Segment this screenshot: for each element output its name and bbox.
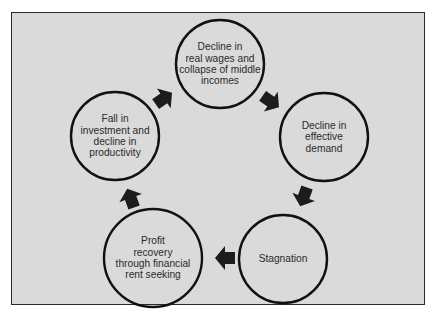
arrow-profit-to-investment-icon: [116, 185, 145, 212]
node-investment-line: Fall in: [80, 113, 149, 124]
node-wages: Decline in real wages and collapse of mi…: [176, 20, 264, 108]
node-profit-line: recovery: [116, 247, 191, 258]
node-investment: Fall in investment and decline in produc…: [71, 92, 159, 180]
arrow-demand-to-stagnation-icon: [289, 183, 318, 210]
node-stagnation: Stagnation: [239, 215, 327, 303]
node-profit-line: rent seeking: [116, 269, 191, 280]
node-demand-line: effective: [302, 131, 347, 142]
node-stagnation-line: Stagnation: [259, 253, 308, 264]
node-wages-line: collapse of middle: [179, 64, 261, 75]
node-investment-line: productivity: [80, 147, 149, 158]
node-demand: Decline in effective demand: [280, 93, 368, 181]
arrow-stagnation-to-profit-icon: [215, 246, 235, 270]
node-wages-line: Decline in: [179, 41, 261, 52]
node-investment-line: investment and: [80, 125, 149, 136]
node-demand-line: demand: [302, 143, 347, 154]
node-wages-line: incomes: [179, 75, 261, 86]
node-investment-line: decline in: [80, 136, 149, 147]
node-wages-line: real wages and: [179, 53, 261, 64]
node-profit: Profit recovery through financial rent s…: [104, 209, 202, 307]
node-demand-line: Decline in: [302, 120, 347, 131]
node-profit-line: through financial: [116, 258, 191, 269]
node-profit-line: Profit: [116, 235, 191, 246]
